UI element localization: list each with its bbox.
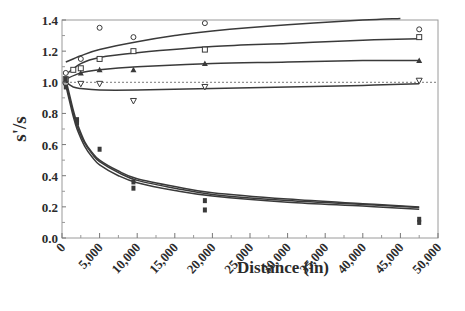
y-tick-label: 1.4 (42, 13, 59, 28)
fit-curve-decay-group (66, 82, 419, 207)
y-tick-label: 0.6 (42, 138, 59, 153)
marker-square-open (131, 49, 136, 54)
marker-square-filled (203, 198, 207, 203)
x-tick-label: 5,000 (75, 240, 106, 272)
marker-square-filled (75, 120, 79, 125)
marker-square-open (71, 67, 76, 72)
marker-triangle-down-open (97, 81, 103, 87)
y-tick-label: 0.2 (42, 200, 58, 215)
marker-circle-open (63, 70, 68, 75)
chart: 0.00.20.40.60.81.01.21.4 05,00010,00015,… (0, 0, 465, 311)
marker-triangle-down-open (78, 81, 84, 87)
x-tick-label: 15,000 (146, 240, 181, 277)
marker-square-open (417, 35, 422, 40)
marker-circle-open (131, 35, 136, 40)
x-tick-label: 40,000 (334, 240, 369, 277)
fit-curve-decay-group (66, 85, 419, 209)
x-tick-label: 0 (53, 240, 68, 255)
fit-curve-square (66, 39, 419, 75)
marker-square-filled (98, 147, 102, 152)
x-tick-label: 20,000 (184, 240, 219, 277)
fit-curve-triangle-up (66, 60, 419, 79)
marker-square-filled (131, 186, 135, 191)
y-axis-title: s'/s (9, 116, 30, 141)
data-markers (63, 21, 422, 225)
marker-square-open (97, 56, 102, 61)
marker-square-filled (417, 220, 421, 225)
marker-square-open (202, 47, 207, 52)
y-tick-label: 1.0 (42, 75, 58, 90)
x-axis-title: Distance (in) (237, 258, 329, 277)
marker-circle-open (202, 21, 207, 26)
marker-triangle-down-open (130, 98, 136, 104)
marker-square-filled (131, 179, 135, 184)
fit-curves (66, 18, 419, 209)
x-tick-label: 50,000 (409, 240, 444, 277)
x-tick-label: 45,000 (372, 240, 407, 277)
fit-curve-decay-group (66, 79, 419, 207)
marker-circle-open (97, 25, 102, 30)
marker-triangle-down-open (416, 78, 422, 84)
fit-curve-triangle-down (66, 82, 419, 90)
marker-circle-open (78, 56, 83, 61)
y-tick-label: 0.4 (42, 169, 59, 184)
y-tick-label: 1.2 (42, 44, 58, 59)
marker-square-filled (203, 207, 207, 212)
y-tick-label: 0.8 (42, 106, 59, 121)
marker-square-filled (64, 77, 68, 82)
x-tick-label: 10,000 (108, 240, 143, 277)
marker-square-filled (64, 84, 68, 89)
marker-circle-open (417, 27, 422, 32)
